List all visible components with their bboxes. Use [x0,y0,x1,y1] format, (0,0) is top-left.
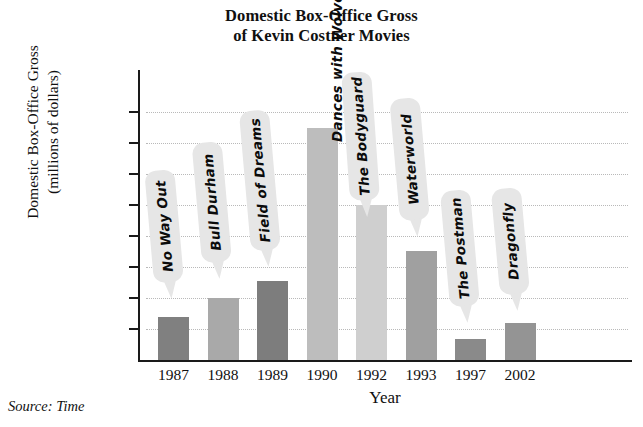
x-axis-line [138,360,632,362]
y-axis-line [138,70,140,362]
callout-tail [212,260,226,279]
gridline [146,112,628,113]
callout-tail [510,292,524,311]
chart-title-line-2: of Kevin Costner Movies [233,26,410,45]
y-axis-title-line-1: Domestic Box-Office Gross [24,45,41,219]
callout-tail [164,280,178,299]
bar [406,251,437,360]
bar-chart-figure: Domestic Box-Office Gross of Kevin Costn… [0,0,643,427]
x-axis-tick-label: 2002 [490,366,550,383]
bar [307,128,338,360]
y-axis-tick [129,266,140,268]
y-axis-tick [129,173,140,175]
callout-tail [261,248,275,267]
bar [208,298,239,360]
movie-label-on-bar: Dances with Wolves [329,0,345,142]
movie-callout-label: Waterworld [398,113,422,205]
bar [455,339,486,360]
callout-tail [360,199,373,218]
movie-callout: Field of Dreams [239,109,281,251]
movie-callout: The Postman [440,189,480,307]
movie-callout: Bull Durham [192,141,232,263]
y-axis-tick [129,204,140,206]
movie-callout-label: No Way Out [152,180,176,273]
y-axis-tick [129,297,140,299]
x-axis-title: Year [138,388,632,408]
movie-callout-label: Bull Durham [200,153,224,251]
movie-callout-label: Dragonfly [499,202,522,281]
movie-callout: The Bodyguard [341,71,380,201]
movie-callout-label: The Bodyguard [348,76,372,196]
callout-tail [410,218,424,237]
y-axis-title: Domestic Box-Office Gross (millions of d… [23,7,63,257]
movie-callout: Dragonfly [491,187,530,295]
movie-callout: Waterworld [389,97,430,221]
movie-callout-label: The Postman [448,197,473,300]
bar [158,317,189,360]
callout-tail [460,304,474,323]
bar [257,281,288,360]
chart-title-line-1: Domestic Box-Office Gross [225,6,418,25]
y-axis-tick [129,328,140,330]
y-axis-tick [129,111,140,113]
y-axis-tick [129,235,140,237]
bar [505,323,536,360]
y-axis-tick [129,142,140,144]
chart-title: Domestic Box-Office Gross of Kevin Costn… [0,6,643,46]
bar [356,205,387,360]
y-axis-title-line-2: (millions of dollars) [43,7,63,257]
movie-callout-label: Field of Dreams [247,118,274,243]
plot-area: No Way OutBull DurhamField of DreamsDanc… [138,70,632,362]
source-note: Source: Time [8,398,84,415]
